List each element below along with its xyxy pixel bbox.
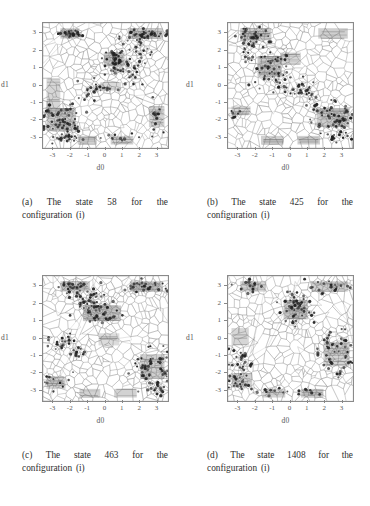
y-tick-mark — [224, 303, 227, 304]
x-tick-mark — [272, 400, 273, 403]
y-axis-label: d1 — [1, 80, 9, 89]
y-tick-label: 2 — [18, 299, 36, 307]
y-tick-mark — [39, 320, 42, 321]
x-tick-label: 3 — [332, 151, 352, 159]
y-tick-mark — [39, 355, 42, 356]
y-tick-mark — [39, 119, 42, 120]
figure-panel-b: -3-2-10123-3-2-10123d0d1(b) The state 42… — [185, 0, 370, 253]
x-tick-mark — [324, 147, 325, 150]
y-axis-label: d1 — [186, 80, 194, 89]
x-tick-label: 3 — [147, 404, 167, 412]
x-axis-label: d0 — [282, 163, 290, 172]
y-tick-mark — [224, 50, 227, 51]
y-tick-label: -3 — [203, 133, 221, 141]
x-tick-mark — [255, 400, 256, 403]
y-tick-mark — [224, 32, 227, 33]
y-tick-mark — [39, 137, 42, 138]
y-tick-mark — [39, 303, 42, 304]
y-tick-label: -2 — [203, 115, 221, 123]
figure-grid: -3-2-10123-3-2-10123d0d1(a) The state 58… — [0, 0, 370, 506]
y-tick-label: -2 — [203, 368, 221, 376]
y-tick-mark — [39, 50, 42, 51]
y-tick-label: 1 — [203, 63, 221, 71]
y-tick-mark — [224, 355, 227, 356]
y-tick-label: 2 — [18, 46, 36, 54]
panel-caption-c: (c) The state 463 for the configuration … — [22, 449, 168, 475]
y-tick-mark — [39, 390, 42, 391]
x-axis-label: d0 — [97, 416, 105, 425]
plot-area-b — [227, 22, 354, 149]
plot-area-a — [42, 22, 169, 149]
panel-caption-b: (b) The state 425 for the configuration … — [207, 196, 353, 222]
y-tick-mark — [224, 85, 227, 86]
y-tick-label: -3 — [18, 386, 36, 394]
figure-panel-c: -3-2-10123-3-2-10123d0d1(c) The state 46… — [0, 253, 185, 506]
x-tick-mark — [70, 400, 71, 403]
plot-area-c — [42, 275, 169, 402]
x-tick-mark — [122, 147, 123, 150]
y-tick-label: 3 — [203, 281, 221, 289]
y-tick-mark — [39, 85, 42, 86]
y-tick-mark — [224, 67, 227, 68]
x-tick-mark — [52, 400, 53, 403]
y-tick-label: 0 — [18, 334, 36, 342]
y-tick-label: -3 — [18, 133, 36, 141]
x-tick-label: 3 — [332, 404, 352, 412]
y-tick-label: 3 — [18, 28, 36, 36]
y-axis-label: d1 — [186, 333, 194, 342]
x-tick-mark — [105, 400, 106, 403]
x-tick-mark — [342, 400, 343, 403]
y-tick-label: 2 — [203, 299, 221, 307]
y-tick-mark — [224, 102, 227, 103]
y-tick-label: -2 — [18, 368, 36, 376]
y-tick-mark — [39, 102, 42, 103]
y-tick-label: 1 — [18, 316, 36, 324]
y-axis-label: d1 — [1, 333, 9, 342]
x-tick-mark — [157, 400, 158, 403]
y-tick-label: -1 — [203, 98, 221, 106]
y-tick-mark — [224, 320, 227, 321]
y-tick-label: 2 — [203, 46, 221, 54]
x-tick-mark — [139, 400, 140, 403]
y-tick-mark — [224, 137, 227, 138]
y-tick-mark — [224, 119, 227, 120]
y-tick-label: 0 — [203, 334, 221, 342]
x-tick-mark — [324, 400, 325, 403]
x-tick-mark — [272, 147, 273, 150]
x-tick-mark — [237, 400, 238, 403]
figure-panel-a: -3-2-10123-3-2-10123d0d1(a) The state 58… — [0, 0, 185, 253]
panel-caption-a: (a) The state 58 for the configuration (… — [22, 196, 168, 222]
y-tick-mark — [39, 32, 42, 33]
x-tick-mark — [139, 147, 140, 150]
y-tick-label: -1 — [18, 98, 36, 106]
x-axis-label: d0 — [282, 416, 290, 425]
y-tick-mark — [224, 390, 227, 391]
y-tick-label: 3 — [18, 281, 36, 289]
x-tick-mark — [342, 147, 343, 150]
x-tick-mark — [52, 147, 53, 150]
y-tick-label: 0 — [18, 81, 36, 89]
x-tick-mark — [307, 147, 308, 150]
x-axis-label: d0 — [97, 163, 105, 172]
figure-panel-d: -3-2-10123-3-2-10123d0d1(d) The state 14… — [185, 253, 370, 506]
y-tick-label: -1 — [18, 351, 36, 359]
y-tick-mark — [39, 338, 42, 339]
x-tick-mark — [87, 147, 88, 150]
y-tick-label: 3 — [203, 28, 221, 36]
y-tick-mark — [39, 67, 42, 68]
x-tick-mark — [237, 147, 238, 150]
plot-area-d — [227, 275, 354, 402]
x-tick-mark — [157, 147, 158, 150]
x-tick-mark — [105, 147, 106, 150]
x-tick-label: 3 — [147, 151, 167, 159]
y-tick-mark — [224, 338, 227, 339]
y-tick-label: -1 — [203, 351, 221, 359]
y-tick-mark — [224, 372, 227, 373]
y-tick-mark — [39, 285, 42, 286]
y-tick-label: 1 — [203, 316, 221, 324]
y-tick-label: -2 — [18, 115, 36, 123]
y-tick-label: 1 — [18, 63, 36, 71]
panel-caption-d: (d) The state 1408 for the configuration… — [207, 449, 353, 475]
x-tick-mark — [87, 400, 88, 403]
x-tick-mark — [70, 147, 71, 150]
